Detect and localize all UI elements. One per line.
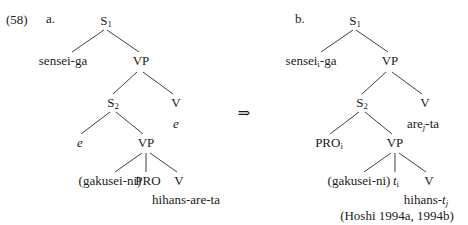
tree-a-node-dative: (gakusei-ni) xyxy=(79,174,142,187)
tree-a-node-s2: S2 xyxy=(107,96,119,109)
tree-branch-lines xyxy=(0,0,468,225)
tree-b-node-s2: S2 xyxy=(356,96,368,109)
tree-b-node-vp1: VP xyxy=(382,54,399,67)
example-number: (58) xyxy=(6,12,28,28)
transform-arrow-icon: ⇒ xyxy=(238,104,251,122)
citation: (Hoshi 1994a, 1994b) xyxy=(340,208,454,224)
tree-a-node-v-embedded: V xyxy=(174,174,183,187)
tree-a-node-subject: sensei-ga xyxy=(39,54,87,67)
tree-a-empty-subject: e xyxy=(77,136,83,149)
tree-a-node-vp1: VP xyxy=(133,54,150,67)
tree-b-node-pro: PROi xyxy=(315,136,343,149)
tree-b-label: b. xyxy=(295,12,305,25)
tree-b-node-subject: senseii-ga xyxy=(286,54,337,67)
tree-a-label: a. xyxy=(46,12,55,25)
tree-a-node-pro: PRO xyxy=(135,174,160,187)
tree-b-v-matrix-word: arej-ta xyxy=(407,117,439,130)
tree-a-node-s1: S1 xyxy=(100,14,112,27)
tree-b-v-embedded-word: hihans-tj xyxy=(404,193,448,206)
tree-b-node-dative: (gakusei-ni) xyxy=(328,174,391,187)
tree-a-v-embedded-word: hihans-are-ta xyxy=(152,193,220,206)
tree-b-node-vp2: VP xyxy=(387,136,404,149)
syntax-tree-figure: (58) xyxy=(0,0,468,225)
tree-b-node-s1: S1 xyxy=(349,14,361,27)
tree-b-node-trace: ti xyxy=(393,174,399,187)
tree-b-node-v-embedded: V xyxy=(424,174,433,187)
tree-a-node-vp2: VP xyxy=(138,136,155,149)
tree-a-v-matrix-word: e xyxy=(173,117,179,130)
tree-a-node-v-matrix: V xyxy=(171,96,180,109)
tree-b-node-v-matrix: V xyxy=(420,96,429,109)
